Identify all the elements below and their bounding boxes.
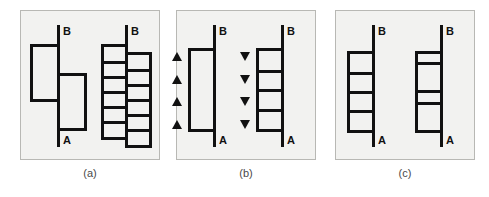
domain-divider-b-right-0-0 [256,70,284,73]
domain-box-c-left-0 [347,51,375,133]
label-b-a-left: B [63,26,71,37]
domain-divider-a-right-1-3 [125,114,152,117]
marker-triangle-up-b-left-1 [172,75,182,84]
panel-a: BABA [20,10,160,160]
label-b-a-right: B [131,26,139,37]
domain-box-c-right-0 [415,51,443,133]
label-b-b-left: B [219,26,227,37]
domain-box-a-right-1 [125,52,152,148]
domain-divider-a-right-1-1 [125,84,152,87]
label-b-b-right: B [287,26,295,37]
panel-c: BABA [335,10,475,160]
marker-triangle-up-b-left-0 [172,52,182,61]
domain-divider-c-right-0-0 [415,62,443,65]
domain-box-a-left-1 [57,73,87,131]
panel-caption-a: (a) [20,167,160,179]
domain-divider-c-left-0-2 [347,110,375,113]
domain-divider-a-right-1-2 [125,99,152,102]
label-a-a-left: A [63,135,71,146]
structure-a-left: BA [21,11,91,159]
panel-b: BABA [176,10,316,160]
label-a-b-left: A [219,135,227,146]
domain-box-b-left-0 [188,48,216,132]
domain-divider-c-left-0-1 [347,91,375,94]
label-b-c-left: B [378,26,386,37]
domain-divider-c-right-0-2 [415,102,443,105]
marker-triangle-down-b-right-2 [240,97,250,106]
label-a-b-right: A [287,135,295,146]
domain-box-a-right-0 [101,44,128,140]
domain-box-b-right-0 [256,48,284,132]
marker-triangle-up-b-left-3 [172,120,182,129]
domain-divider-a-right-0-4 [101,121,128,124]
structure-b-left: BA [177,11,247,159]
marker-triangle-down-b-right-0 [240,52,250,61]
domain-divider-a-right-0-2 [101,91,128,94]
structure-c-left: BA [336,11,406,159]
domain-divider-a-right-0-0 [101,61,128,64]
label-a-c-right: A [446,135,454,146]
panel-caption-b: (b) [176,167,316,179]
domain-divider-c-right-0-1 [415,90,443,93]
structure-c-right: BA [404,11,474,159]
panel-caption-c: (c) [335,167,475,179]
domain-divider-a-right-1-4 [125,129,152,132]
marker-triangle-down-b-right-3 [240,120,250,129]
domain-divider-c-left-0-0 [347,72,375,75]
domain-divider-a-right-1-0 [125,69,152,72]
domain-divider-a-right-0-3 [101,106,128,109]
figure-container: BABA BABA BABA (a) (b) (c) [0,0,489,197]
structure-b-right: BA [245,11,315,159]
domain-divider-b-right-0-1 [256,89,284,92]
domain-divider-b-right-0-2 [256,109,284,112]
marker-triangle-up-b-left-2 [172,97,182,106]
structure-a-right: BA [89,11,159,159]
domain-box-a-left-0 [30,44,60,102]
domain-divider-a-right-0-1 [101,76,128,79]
label-b-c-right: B [446,26,454,37]
label-a-c-left: A [378,135,386,146]
marker-triangle-down-b-right-1 [240,75,250,84]
